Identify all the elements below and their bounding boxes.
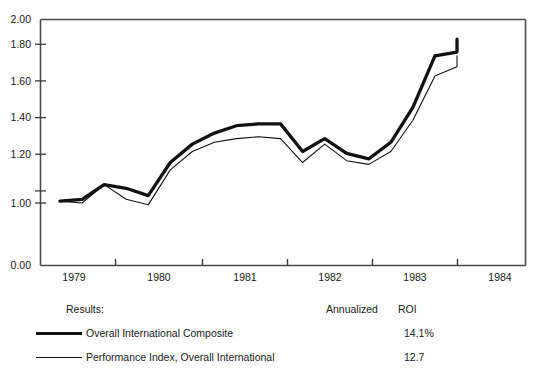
- x-tick-label: 1981: [233, 271, 257, 283]
- chart-legend: Results: Annualized ROI Overall Internat…: [0, 296, 547, 373]
- y-tick-label: 1.60: [11, 75, 32, 87]
- y-tick-label: 1.40: [11, 111, 32, 123]
- y-tick-label: 1.20: [11, 148, 32, 160]
- legend-annualized-header: Annualized: [326, 302, 378, 316]
- legend-series-label: Overall International Composite: [86, 326, 233, 340]
- y-tick-label: 1.80: [11, 38, 32, 50]
- y-axis-labels: 2.00 1.80 1.60 1.40 1.20 1.00 0.00: [11, 13, 32, 271]
- legend-item-composite: Overall International Composite 14.1%: [0, 324, 547, 346]
- chart-page: 2.00 1.80 1.60 1.40 1.20 1.00 0.00 1979 …: [0, 0, 547, 373]
- plot-frame: [41, 20, 526, 266]
- legend-header-row: Results: Annualized ROI: [0, 300, 547, 322]
- legend-swatch-bold-line: [36, 332, 82, 335]
- legend-series-roi-value: 12.7: [404, 350, 424, 364]
- data-series-layer: [60, 39, 457, 205]
- y-tick-label: 0.00: [11, 259, 32, 271]
- x-tick-label: 1979: [62, 271, 86, 283]
- x-tick-label: 1984: [488, 271, 512, 283]
- x-axis-labels: 1979 1980 1981 1982 1983 1984: [62, 271, 512, 283]
- line-chart-svg: 2.00 1.80 1.60 1.40 1.20 1.00 0.00 1979 …: [0, 0, 547, 292]
- chart-area: 2.00 1.80 1.60 1.40 1.20 1.00 0.00 1979 …: [0, 0, 547, 292]
- y-tick-label: 2.00: [11, 13, 32, 25]
- x-tick-label: 1980: [147, 271, 171, 283]
- series-line-composite: [60, 39, 457, 201]
- legend-roi-header: ROI: [398, 302, 417, 316]
- legend-series-label: Performance Index, Overall International: [86, 350, 275, 364]
- x-tick-label: 1983: [403, 271, 427, 283]
- legend-series-roi-value: 14.1%: [404, 326, 434, 340]
- legend-swatch-thin-line: [36, 357, 82, 358]
- x-tick-label: 1982: [318, 271, 342, 283]
- legend-results-label: Results:: [66, 302, 104, 316]
- legend-item-performance-index: Performance Index, Overall International…: [0, 348, 547, 370]
- x-axis-ticks: [116, 259, 458, 266]
- y-tick-label: 1.00: [11, 197, 32, 209]
